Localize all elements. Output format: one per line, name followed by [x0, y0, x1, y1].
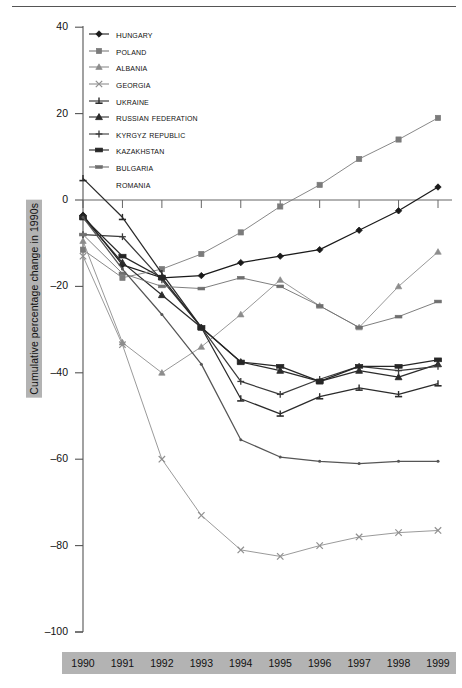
y-tick-label: 0 [34, 193, 68, 205]
legend-item-russian-federation[interactable]: Russian Federation [88, 109, 308, 126]
legend-item-label: Romania [110, 178, 150, 190]
x-tick-label: 1997 [342, 656, 376, 670]
chart-legend: HungaryPolandAlbaniaGeorgiaUkraineRussia… [88, 26, 308, 192]
legend-item-label: Bulgaria [110, 161, 153, 173]
none-marker-icon [88, 177, 110, 191]
legend-item-romania[interactable]: Romania [88, 175, 308, 192]
series-russian-federation [80, 214, 442, 384]
rect-wide-marker-icon [88, 143, 110, 157]
series-hungary [80, 184, 441, 281]
y-tick-label: –80 [34, 539, 68, 551]
x-tick-label: 1990 [66, 656, 100, 670]
legend-item-bulgaria[interactable]: Bulgaria [88, 159, 308, 176]
legend-item-albania[interactable]: Albania [88, 59, 308, 76]
x-axis-label-band: 1990199119921993199419951996199719981999 [62, 652, 456, 674]
legend-item-label: Albania [110, 61, 147, 73]
series-albania [80, 238, 441, 375]
x-tick-label: 1992 [145, 656, 179, 670]
x-tick-label: 1998 [382, 656, 416, 670]
series-romania [82, 216, 440, 465]
legend-item-label: Ukraine [110, 95, 149, 107]
cross-x-marker-icon [88, 77, 110, 91]
square-marker-icon [88, 44, 110, 58]
y-tick-label: 20 [34, 107, 68, 119]
x-tick-label: 1996 [303, 656, 337, 670]
y-axis-ticks [75, 27, 83, 632]
legend-item-hungary[interactable]: Hungary [88, 26, 308, 43]
chart-figure: Cumulative percentage change in 1990s 40… [0, 0, 462, 688]
legend-item-kazakhstan[interactable]: Kazakhstan [88, 142, 308, 159]
legend-item-label: Hungary [110, 28, 153, 40]
series-kyrgyz-republic [80, 231, 442, 398]
legend-item-label: Poland [110, 45, 146, 57]
legend-item-label: Kazakhstan [110, 144, 164, 156]
legend-item-label: Georgia [110, 78, 151, 90]
y-tick-label: –60 [34, 452, 68, 464]
y-tick-label: –100 [34, 625, 68, 637]
legend-item-ukraine[interactable]: Ukraine [88, 92, 308, 109]
x-tick-label: 1991 [105, 656, 139, 670]
legend-item-poland[interactable]: Poland [88, 43, 308, 60]
x-axis-ticks [75, 200, 438, 632]
diamond-marker-icon [88, 27, 110, 41]
legend-item-kyrgyz-republic[interactable]: Kyrgyz Republic [88, 126, 308, 143]
x-tick-label: 1993 [184, 656, 218, 670]
series-ukraine [79, 175, 441, 416]
series-kazakhstan [79, 215, 441, 383]
legend-item-label: Russian Federation [110, 111, 198, 123]
dash-marker-icon [88, 160, 110, 174]
legend-item-georgia[interactable]: Georgia [88, 76, 308, 93]
y-tick-label: 40 [34, 20, 68, 32]
x-tick-label: 1994 [224, 656, 258, 670]
series-bulgaria [80, 233, 442, 329]
bar-plus-marker-icon [88, 94, 110, 108]
x-tick-label: 1995 [263, 656, 297, 670]
x-tick-label: 1999 [421, 656, 455, 670]
y-tick-label: –40 [34, 366, 68, 378]
legend-item-label: Kyrgyz Republic [110, 128, 185, 140]
triangle-marker-icon [88, 60, 110, 74]
plus-marker-icon [88, 127, 110, 141]
y-tick-label: –20 [34, 279, 68, 291]
triangle-solid-marker-icon [88, 110, 110, 124]
